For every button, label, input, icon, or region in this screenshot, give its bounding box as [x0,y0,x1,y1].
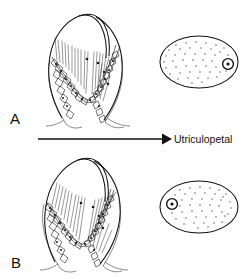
figure-container: A [0,0,249,279]
ampulla-cross-section-b [160,181,238,233]
stipple-dots-b [169,186,231,228]
ampulla-cross-section-a [160,36,238,88]
panel-letter-a: A [10,110,20,127]
cupula-marker-b [167,199,178,210]
panel-letter-b: B [11,254,21,271]
crista-ampullaris-a [46,14,130,128]
cupula-marker-a [223,59,234,70]
stipple-dots-a [163,41,230,83]
direction-arrow [38,134,172,145]
anatomical-figure: A [0,0,249,279]
crista-ampullaris-b [40,158,128,272]
arrow-caption: Utriculopetal [174,133,232,145]
